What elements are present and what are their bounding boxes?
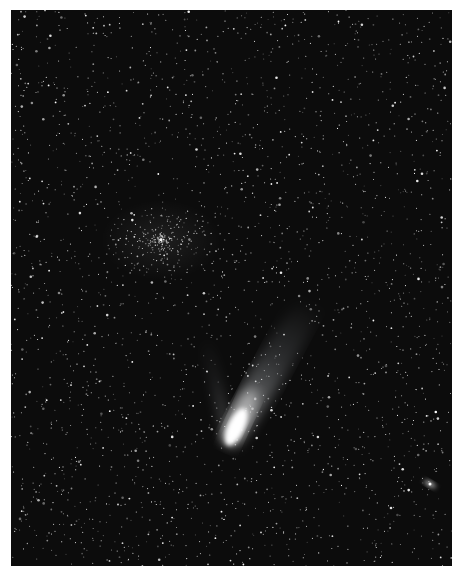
stars	[11, 10, 452, 566]
night-sky-photo	[11, 10, 452, 566]
star-cluster	[101, 200, 221, 280]
galaxy	[420, 476, 440, 492]
comet	[201, 292, 324, 451]
star-field	[11, 10, 452, 566]
